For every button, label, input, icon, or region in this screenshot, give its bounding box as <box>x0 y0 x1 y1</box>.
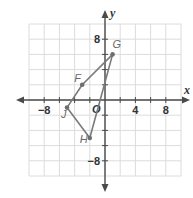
x-tick-label: 8 <box>163 104 169 116</box>
x-axis-label: x <box>183 83 190 97</box>
y-axis-label: y <box>108 6 116 20</box>
point-label-g: G <box>113 38 122 50</box>
y-tick-label: −8 <box>87 155 100 167</box>
y-axis-arrow-down-icon <box>102 184 109 192</box>
point-label-h: H <box>80 133 88 145</box>
point-label-f: F <box>74 72 82 84</box>
x-tick-label: −8 <box>38 104 51 116</box>
x-axis-arrow-left-icon <box>16 97 24 104</box>
y-axis-arrow-up-icon <box>102 10 109 18</box>
axes <box>16 10 190 192</box>
point-label-j: J <box>60 108 67 120</box>
point-h <box>88 136 93 141</box>
coordinate-plane: −8488−8 x y O FGHJ <box>0 0 193 198</box>
x-axis-arrow-right-icon <box>182 97 190 104</box>
point-g <box>110 52 115 57</box>
x-tick-label: 4 <box>132 104 139 116</box>
y-tick-label: 8 <box>94 33 100 45</box>
